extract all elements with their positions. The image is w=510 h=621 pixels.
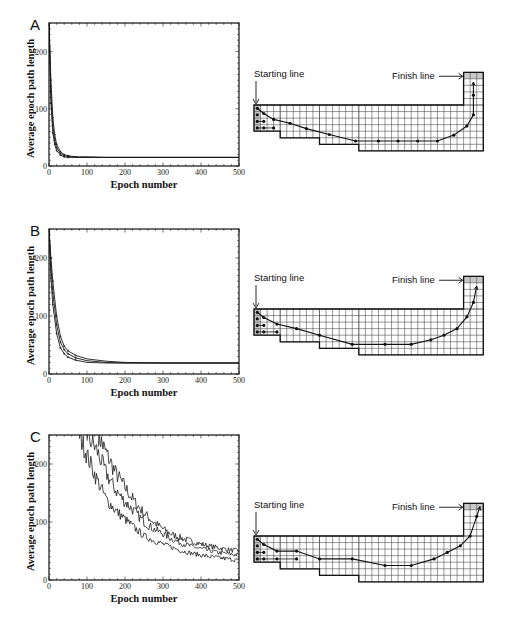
trajectory-point xyxy=(256,113,259,116)
trajectory-point xyxy=(275,549,278,552)
y-tick-label: 200 xyxy=(35,460,47,469)
x-tick-label: 200 xyxy=(119,582,131,591)
trajectory-point xyxy=(442,334,445,337)
trajectory-point xyxy=(459,544,462,547)
x-tick-label: 300 xyxy=(157,376,169,385)
trajectory-point xyxy=(465,315,468,318)
trajectory-point xyxy=(256,107,259,110)
track-grid xyxy=(254,276,483,355)
trajectory-point xyxy=(472,301,475,304)
trajectory-point xyxy=(318,334,321,337)
starting-line-label: Starting line xyxy=(254,499,304,510)
y-tick-label: 0 xyxy=(43,576,47,585)
x-tick-label: 500 xyxy=(233,168,245,177)
trajectory-point xyxy=(383,564,386,567)
trajectory-point xyxy=(472,113,475,116)
y-axis-title: Average epoch path length xyxy=(25,452,36,571)
trajectory-point xyxy=(272,118,275,121)
x-tick-label: 500 xyxy=(233,582,245,591)
trajectory-point xyxy=(433,557,436,560)
starting-line-label: Starting line xyxy=(254,68,304,79)
starting-line-label: Starting line xyxy=(254,272,304,283)
series-point xyxy=(63,345,65,347)
y-tick-label: 0 xyxy=(43,162,47,171)
x-tick-label: 0 xyxy=(47,582,51,591)
series-point xyxy=(75,357,77,359)
series-point xyxy=(63,349,65,351)
finish-line-label: Finish line xyxy=(392,70,435,81)
chart-panel-c: C01002003004005000100200Epoch numberAver… xyxy=(25,427,245,604)
series-point xyxy=(60,347,62,349)
x-tick-label: 400 xyxy=(195,582,207,591)
trajectory-point xyxy=(416,139,419,142)
x-tick-label: 500 xyxy=(233,376,245,385)
trajectory-point xyxy=(262,112,265,115)
x-tick-label: 100 xyxy=(81,582,93,591)
finish-line-cells xyxy=(464,276,484,283)
finish-line-label: Finish line xyxy=(392,274,435,285)
trajectory-point xyxy=(452,134,455,137)
trajectory-point xyxy=(472,94,475,97)
series-line-upper xyxy=(98,427,239,552)
racetrack-b: Starting lineFinish line xyxy=(253,272,483,355)
series-point xyxy=(63,156,65,158)
x-axis-title: Epoch number xyxy=(111,179,178,190)
x-tick-label: 100 xyxy=(81,168,93,177)
series-point xyxy=(67,356,69,358)
trajectory-point xyxy=(256,544,259,547)
y-tick-label: 200 xyxy=(35,48,47,57)
x-tick-label: 400 xyxy=(195,376,207,385)
series-point xyxy=(60,335,62,337)
trajectory-point xyxy=(354,139,357,142)
series-line-middle xyxy=(49,23,239,157)
series-line-middle xyxy=(49,229,239,363)
series-point xyxy=(75,359,77,361)
series-point xyxy=(67,350,69,352)
panel-letter: A xyxy=(30,16,40,33)
series-line-lower xyxy=(79,431,239,562)
trajectory-point xyxy=(256,317,259,320)
trajectory-point xyxy=(377,139,380,142)
trajectory-point xyxy=(446,551,449,554)
racetrack-a: Starting lineFinish line xyxy=(253,68,483,151)
plot-frame xyxy=(49,229,239,374)
trajectory-point xyxy=(397,139,400,142)
series-point xyxy=(67,353,69,355)
trajectory-point xyxy=(465,124,468,127)
series-point xyxy=(54,143,56,145)
series-point xyxy=(52,132,54,134)
trajectory-point xyxy=(262,316,265,319)
series-line-middle xyxy=(87,429,239,556)
series-point xyxy=(60,154,62,156)
series-point xyxy=(56,333,58,335)
x-tick-label: 0 xyxy=(47,376,51,385)
trajectory-point xyxy=(383,343,386,346)
x-tick-label: 400 xyxy=(195,168,207,177)
x-axis-title: Epoch number xyxy=(111,593,178,604)
y-tick-label: 0 xyxy=(43,370,47,379)
trajectory-point xyxy=(455,327,458,330)
series-point xyxy=(60,341,62,343)
series-point xyxy=(50,277,52,279)
y-tick-label: 100 xyxy=(35,105,47,114)
y-tick-label: 100 xyxy=(35,518,47,527)
trajectory-point xyxy=(318,557,321,560)
trajectory-point xyxy=(328,133,331,136)
x-tick-label: 300 xyxy=(157,582,169,591)
trajectory-point xyxy=(436,139,439,142)
series-line-upper xyxy=(49,229,239,363)
series-line-lower xyxy=(49,229,239,363)
series-line-upper xyxy=(49,23,239,157)
y-axis-title: Average epoch path length xyxy=(25,246,36,365)
panel-letter: B xyxy=(30,222,40,239)
finish-line-cells xyxy=(464,72,484,79)
trajectory-point xyxy=(351,557,354,560)
x-axis-title: Epoch number xyxy=(111,387,178,398)
trajectory-point xyxy=(275,322,278,325)
series-point xyxy=(75,355,77,357)
trajectory-point xyxy=(295,327,298,330)
series-line-lower xyxy=(49,23,239,157)
x-tick-label: 0 xyxy=(47,168,51,177)
trajectory-point xyxy=(469,534,472,537)
y-tick-label: 200 xyxy=(35,254,47,263)
